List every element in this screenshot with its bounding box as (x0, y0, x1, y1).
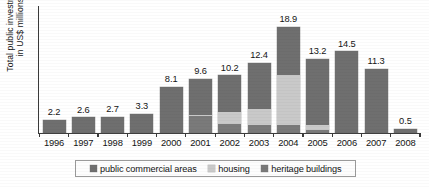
bar-stack (43, 120, 66, 133)
bar-group-2001: 9.6 (186, 6, 215, 133)
bar-value-label: 2.2 (48, 108, 61, 117)
bar-segment-commercial (365, 69, 388, 132)
bar-stack (101, 117, 124, 133)
bar-stack (277, 27, 300, 133)
bar-segment-commercial (277, 27, 300, 74)
bar-stack (365, 69, 388, 132)
bar-value-label: 3.3 (136, 102, 149, 111)
x-axis-label-1999: 1999 (127, 137, 156, 148)
bar-stack (335, 51, 358, 132)
bar-group-2007: 11.3 (361, 6, 390, 133)
bar-value-label: 9.6 (194, 67, 207, 76)
x-axis-label-2000: 2000 (157, 137, 186, 148)
bar-value-label: 2.7 (106, 105, 119, 114)
legend-item-0: public commercial areas (90, 164, 197, 174)
bar-segment-commercial (306, 59, 329, 125)
bar-group-2005: 13.2 (303, 6, 332, 133)
bar-segment-commercial (160, 87, 183, 133)
bar-group-1999: 3.3 (127, 6, 156, 133)
x-axis-label-2002: 2002 (215, 137, 244, 148)
plot-area: 2.22.62.73.38.19.610.212.418.913.214.511… (38, 6, 420, 134)
x-axis-label-1997: 1997 (69, 137, 98, 148)
bar-group-2003: 12.4 (244, 6, 273, 133)
bar-group-1998: 2.7 (98, 6, 127, 133)
bar-value-label: 12.4 (250, 51, 268, 60)
legend-swatch-housing-icon (208, 165, 215, 172)
legend-swatch-heritage-icon (261, 165, 268, 172)
bar-value-label: 11.3 (368, 57, 385, 66)
bar-value-label: 10.2 (221, 64, 239, 73)
x-axis-label-2008: 2008 (391, 137, 420, 148)
bar-segment-heritage (248, 125, 271, 132)
bar-segment-housing (277, 75, 300, 125)
bar-value-label: 8.1 (165, 75, 178, 84)
bar-segment-commercial (248, 63, 271, 108)
bar-segment-commercial (130, 114, 153, 133)
bar-value-label: 13.2 (309, 47, 327, 56)
x-axis-label-2004: 2004 (274, 137, 303, 148)
bar-stack (189, 79, 212, 133)
bar-group-1996: 2.2 (39, 6, 68, 133)
bar-group-2006: 14.5 (332, 6, 361, 133)
bar-value-label: 18.9 (279, 15, 297, 24)
bar-segment-commercial (43, 120, 66, 133)
bar-stack (306, 59, 329, 133)
legend-label: housing (218, 164, 249, 174)
y-axis-title: Total public investment in US$ millions (0, 0, 30, 86)
bar-segment-commercial (72, 117, 95, 132)
bar-segment-commercial (394, 129, 417, 133)
x-axis-label-1996: 1996 (39, 137, 68, 148)
y-axis-title-line-2: in US$ millions (15, 0, 25, 56)
bar-segment-housing (218, 112, 241, 124)
legend-label: public commercial areas (100, 164, 197, 174)
legend-item-1: housing (208, 164, 250, 174)
bar-value-label: 2.6 (77, 106, 90, 115)
bar-group-1997: 2.6 (69, 6, 98, 133)
bar-value-label: 14.5 (338, 40, 356, 49)
chart-legend: public commercial areashousingheritage b… (75, 160, 356, 177)
bar-segment-commercial (335, 51, 358, 132)
legend-item-2: heritage buildings (261, 164, 342, 174)
bar-segment-heritage (218, 124, 241, 132)
legend-swatch-commercial-icon (90, 165, 97, 172)
legend-label: heritage buildings (271, 164, 341, 174)
bar-stack (218, 75, 241, 132)
bar-group-2000: 8.1 (157, 6, 186, 133)
bar-stack (248, 63, 271, 133)
bar-group-2008: 0.5 (391, 6, 420, 133)
bar-segment-heritage (189, 116, 212, 133)
bar-segment-heritage (277, 125, 300, 133)
x-axis-label-2001: 2001 (186, 137, 215, 148)
bar-stack (394, 129, 417, 133)
x-axis-label-2006: 2006 (332, 137, 361, 148)
x-axis-labels: 1996199719981999200020012002200320042005… (39, 137, 420, 148)
bar-stack (130, 114, 153, 133)
bar-stack (160, 87, 183, 133)
x-axis-label-2003: 2003 (244, 137, 273, 148)
bar-segment-commercial (101, 117, 124, 133)
bar-segment-commercial (189, 79, 212, 115)
bar-group-2002: 10.2 (215, 6, 244, 133)
bar-value-label: 0.5 (399, 117, 412, 126)
y-axis-title-line-1: Total public investment (5, 0, 15, 72)
bar-stack (72, 117, 95, 132)
bar-segment-housing (248, 109, 271, 126)
bar-segment-commercial (218, 75, 241, 112)
bar-group-2004: 18.9 (274, 6, 303, 133)
stacked-bar-chart: Total public investment in US$ millions … (0, 0, 429, 187)
x-axis-label-2005: 2005 (303, 137, 332, 148)
bars-container: 2.22.62.73.38.19.610.212.418.913.214.511… (39, 6, 420, 133)
x-axis-label-1998: 1998 (98, 137, 127, 148)
x-axis-label-2007: 2007 (361, 137, 390, 148)
